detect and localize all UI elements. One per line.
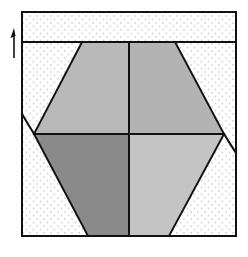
diagram-canvas <box>0 0 248 257</box>
up-arrow-icon <box>11 28 16 58</box>
